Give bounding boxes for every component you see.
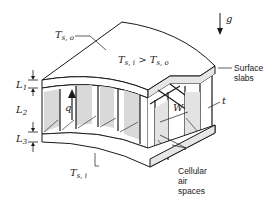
label-temperature-condition: Ts, i > Ts, o [118,55,169,67]
wall-illustration [0,0,279,202]
label-L1: L1 [16,80,27,92]
label-W: W [173,103,183,113]
label-L2: L2 [16,105,27,117]
label-cellular-air-spaces: Cellularairspaces [178,166,207,196]
label-t: t [222,96,226,106]
label-T-so: Ts, o [55,30,74,42]
label-L3: L3 [16,134,27,146]
label-T-si: Ts, i [70,168,87,180]
label-q: q [65,103,71,113]
gravity-arrow [217,28,223,35]
label-surface-slabs: Surfaceslabs [234,63,263,83]
label-g: g [226,14,232,24]
composite-wall-diagram: Ts, o Ts, i > Ts, o g Surfaceslabs t L1 … [0,0,279,202]
